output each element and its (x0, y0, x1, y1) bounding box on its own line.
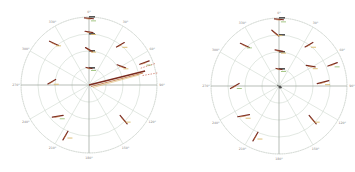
angle-spoke (89, 85, 123, 144)
angle-spoke (279, 27, 313, 86)
angle-spoke (89, 85, 148, 119)
angle-tick-label: 90° (349, 84, 355, 88)
radial-tick-label (89, 16, 95, 18)
angle-spoke (279, 86, 313, 145)
angle-tick-label: 90° (159, 83, 165, 87)
angle-spoke (279, 86, 338, 120)
track-marker (52, 115, 64, 119)
angle-tick-label: 240° (22, 120, 30, 124)
angle-spoke (55, 85, 89, 144)
track-marker (317, 81, 330, 86)
angle-tick-label: 180° (275, 157, 283, 161)
angle-tick-label: 60° (339, 48, 345, 52)
angle-tick-label: 150° (312, 147, 320, 151)
track-marker (275, 19, 286, 22)
track-marker (140, 61, 152, 66)
angle-tick-label: 270° (202, 84, 210, 88)
angle-spoke (245, 27, 279, 86)
polar-chart-left: 0°30°60°90°120°150°180°210°240°270°300°3… (0, 0, 178, 172)
polar-plot-right: 0°30°60°90°120°150°180°210°240°270°300°3… (177, 0, 355, 172)
track-marker (309, 115, 320, 123)
dashed-extension (143, 73, 158, 76)
angle-tick-label: 330° (49, 20, 57, 24)
angle-tick-label: 210° (49, 146, 57, 150)
angle-tick-label: 240° (212, 121, 220, 125)
angle-tick-label: 0° (87, 10, 91, 14)
track-marker (328, 63, 340, 68)
angle-spoke (55, 26, 89, 85)
polar-plot-left: 0°30°60°90°120°150°180°210°240°270°300°3… (0, 0, 178, 172)
dashed-extension (141, 64, 155, 69)
angle-tick-label: 300° (22, 47, 30, 51)
angle-tick-label: 30° (313, 21, 319, 25)
track-series (230, 19, 339, 141)
angle-tick-label: 300° (212, 48, 220, 52)
angle-spoke (220, 52, 279, 86)
angle-spoke (30, 85, 89, 119)
angle-tick-label: 120° (148, 120, 156, 124)
angle-tick-label: 120° (338, 121, 346, 125)
angle-tick-label: 180° (85, 156, 93, 160)
angle-spoke (245, 86, 279, 145)
polar-chart-right: 0°30°60°90°120°150°180°210°240°270°300°3… (177, 0, 355, 172)
angle-tick-label: 210° (239, 147, 247, 151)
angle-spoke (30, 51, 89, 85)
angle-tick-label: 30° (123, 20, 129, 24)
angle-tick-label: 0° (277, 11, 281, 15)
angle-tick-label: 270° (12, 83, 20, 87)
radial-tick-label (279, 17, 285, 19)
angle-tick-label: 150° (122, 146, 130, 150)
track-marker (85, 18, 96, 21)
track-marker (48, 79, 59, 84)
angle-tick-label: 330° (239, 21, 247, 25)
angle-spoke (89, 51, 148, 85)
angle-tick-label: 60° (149, 47, 155, 51)
